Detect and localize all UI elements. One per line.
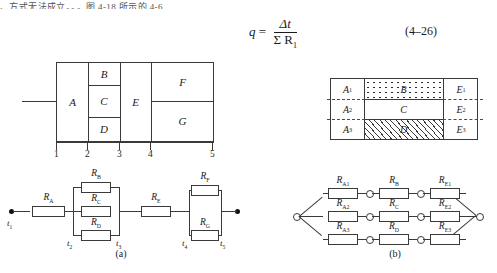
- wire-RB-left: [73, 187, 81, 188]
- resistor-RD: [81, 230, 111, 241]
- resistor-RA3: [328, 234, 358, 245]
- equation-equals: =: [259, 24, 266, 39]
- resistor-RA2-label: RA2: [328, 198, 358, 210]
- circuit-a-caption: (a): [101, 248, 141, 259]
- page-top-cut-text: 、方式无法成立。。。图 4-18 所示的 4-6: [0, 0, 200, 9]
- t4-sub: 4: [185, 244, 188, 250]
- resistor-RB-b-label: RB: [379, 175, 409, 187]
- resistor-RD-label: RD: [81, 217, 111, 229]
- region-A3-sub: 3: [349, 126, 352, 133]
- resistor-RE2-label: RE2: [430, 198, 460, 210]
- region-E1: E1: [443, 79, 479, 99]
- wire-mid-node3: [119, 211, 133, 212]
- node-label-t1: t1: [7, 218, 12, 230]
- RG-sub: G: [206, 223, 210, 229]
- b2-wire-3: [409, 216, 417, 217]
- t2-sub: 2: [70, 244, 73, 250]
- region-E3-sub: 3: [463, 126, 466, 133]
- wire-RB-right: [111, 187, 120, 188]
- RF-sub: F: [206, 177, 209, 183]
- region-D: D: [364, 119, 443, 139]
- t1-sub: 1: [10, 224, 13, 230]
- resistor-RE-label: RE: [141, 192, 171, 204]
- resistor-RC: [81, 206, 111, 217]
- region-G: G: [151, 101, 214, 141]
- equation-fraction: Δt Σ R1: [269, 16, 301, 50]
- wire-node5-out: [221, 211, 237, 212]
- region-C: C: [88, 85, 120, 117]
- resistor-RF: [191, 185, 219, 196]
- scale-baseline: [56, 142, 214, 143]
- wire-node3-RE: [133, 211, 141, 212]
- wall-cross-section-a: A B C D E F G: [56, 62, 214, 142]
- wall-a-scale-numbers: 1 2 3 4 5: [46, 149, 226, 161]
- region-D: D: [88, 117, 120, 141]
- wire-RG-right: [219, 235, 222, 236]
- fanout-left-top: [299, 197, 323, 217]
- scale-number-5: 5: [210, 149, 215, 159]
- b3-wire-2: [372, 239, 379, 240]
- b2-wire-4: [423, 216, 430, 217]
- RE-sub: E: [157, 198, 161, 204]
- rail-left-group1: [73, 187, 74, 236]
- resistor-RG: [191, 230, 219, 241]
- node-label-t5: t5: [220, 238, 225, 250]
- t5-sub: 5: [223, 244, 226, 250]
- b2-wire-1: [358, 216, 366, 217]
- region-A1-sub: 1: [349, 86, 352, 93]
- region-A1: A1: [331, 79, 364, 99]
- heat-flow-lead-line: [22, 101, 56, 102]
- region-C: C: [364, 99, 443, 119]
- b1-wire-2: [372, 193, 379, 194]
- equation-denominator: Σ R1: [269, 30, 301, 47]
- b3-wire-3: [409, 239, 417, 240]
- resistor-RF-label: RF: [191, 171, 219, 183]
- equation-number: (4–26): [405, 24, 437, 39]
- scale-number-4: 4: [148, 149, 153, 159]
- resistor-RB-label: RB: [81, 168, 111, 180]
- RDb-sub: D: [395, 227, 399, 233]
- resistor-RE3: [430, 234, 460, 245]
- RA3-sub: A3: [342, 227, 349, 233]
- wire-RF-right: [219, 190, 222, 191]
- RA2-sub: A2: [342, 204, 349, 210]
- region-E1-sub: 1: [463, 86, 466, 93]
- resistor-RB: [81, 182, 111, 193]
- region-E2: E2: [443, 99, 479, 119]
- resistor-RD-b-label: RD: [379, 221, 409, 233]
- resistor-RD: [379, 234, 409, 245]
- resistor-RG-label: RG: [191, 217, 219, 229]
- wire-RD-right: [111, 235, 120, 236]
- RC-sub: C: [97, 199, 101, 205]
- wall-cross-section-b: A1 A2 A3 B C D E1 E2 E3: [330, 78, 478, 140]
- b1-wire-3: [409, 193, 417, 194]
- region-A2: A2: [331, 99, 364, 119]
- wire-in: [13, 211, 30, 212]
- node-label-t4: t4: [182, 238, 187, 250]
- RE1-sub: E1: [445, 181, 452, 187]
- scale-number-3: 3: [117, 149, 122, 159]
- resistor-RA-label: RA: [32, 192, 65, 204]
- RA1-sub: A1: [342, 181, 349, 187]
- RE3-sub: E3: [445, 227, 452, 233]
- RA-sub: A: [49, 198, 53, 204]
- equation-lhs: q: [249, 24, 256, 39]
- circuit-b-caption: (b): [375, 248, 415, 259]
- node-label-t2: t2: [67, 238, 72, 250]
- wire-RE-node4: [171, 211, 189, 212]
- RBb-sub: B: [395, 181, 399, 187]
- b1-wire-4: [423, 193, 430, 194]
- thermal-circuit-b: RA1 RB RE1 RA2 RC RE2 RA3 RD RE3 (b): [290, 176, 495, 266]
- region-E3: E3: [443, 119, 479, 139]
- wire-RA-to-node2: [65, 211, 73, 212]
- resistor-RE: [141, 206, 171, 217]
- region-F: F: [151, 63, 214, 101]
- RB-sub: B: [97, 174, 101, 180]
- resistor-RA3-label: RA3: [328, 221, 358, 233]
- wire-RD-left: [73, 235, 81, 236]
- resistor-RE1-label: RE1: [430, 175, 460, 187]
- rail-right-group1: [119, 187, 120, 236]
- region-B: B: [364, 79, 443, 99]
- equation-4-26: q = Δt Σ R1: [215, 16, 335, 50]
- b3-wire-5: [460, 239, 466, 240]
